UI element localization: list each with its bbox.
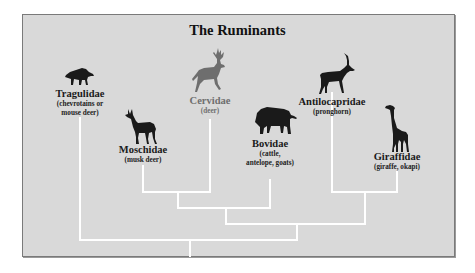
musk-deer-icon: [124, 105, 160, 145]
taxon-common-name: (deer): [190, 107, 231, 116]
taxon-name: Cervidae: [190, 95, 231, 107]
taxon-common-name: (pronghorn): [298, 108, 365, 117]
bison-icon: [254, 106, 298, 136]
taxon-common-name: (musk deer): [119, 156, 167, 165]
taxon-common-name: (giraffe, okapi): [374, 163, 421, 172]
taxon-common-name: (cattle,: [246, 150, 294, 159]
taxon-name: Antilocapridae: [298, 96, 365, 108]
deer-icon: [190, 48, 230, 94]
taxon-common-name: (chevrotains or: [56, 100, 105, 109]
taxon-common-name: antelope, goats): [246, 159, 294, 168]
taxon-common-name: mouse deer): [56, 109, 105, 118]
taxon-moschidae: Moschidae (musk deer): [119, 144, 167, 165]
taxon-name: Giraffidae: [374, 151, 421, 163]
taxon-antilocapridae: Antilocapridae (pronghorn): [298, 96, 365, 117]
taxon-name: Tragulidae: [56, 88, 105, 100]
taxon-giraffidae: Giraffidae (giraffe, okapi): [374, 151, 421, 172]
taxon-bovidae: Bovidae (cattle, antelope, goats): [246, 138, 294, 167]
taxon-name: Moschidae: [119, 144, 167, 156]
taxon-name: Bovidae: [246, 138, 294, 150]
chevrotain-icon: [64, 66, 96, 90]
antelope-icon: [316, 53, 356, 95]
taxon-cervidae: Cervidae (deer): [190, 95, 231, 116]
taxon-tragulidae: Tragulidae (chevrotains or mouse deer): [56, 88, 105, 117]
giraffe-icon: [384, 104, 414, 154]
